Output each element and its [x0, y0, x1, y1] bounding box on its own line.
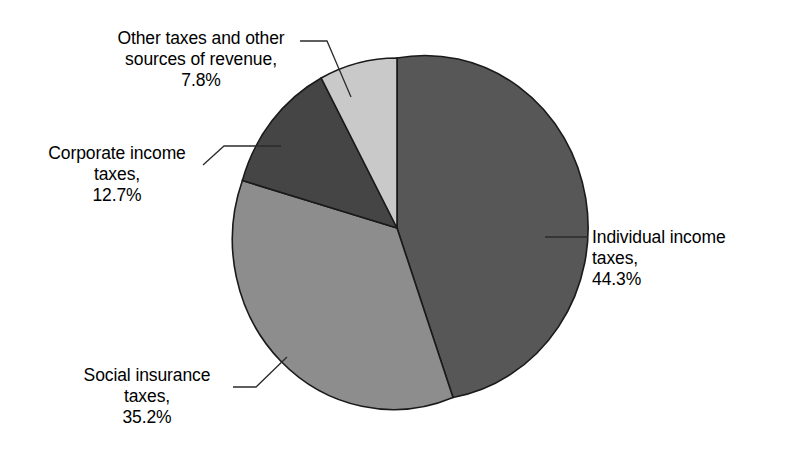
slice-label-individual-income-taxes: Individual income taxes, 44.3% — [592, 227, 784, 290]
slice-label-social-insurance-taxes: Social insurance taxes, 35.2% — [52, 365, 242, 428]
slice-label-corporate-income-taxes: Corporate income taxes, 12.7% — [22, 143, 212, 206]
slice-label-other-taxes: Other taxes and other sources of revenue… — [92, 28, 310, 91]
pie-chart: Other taxes and other sources of revenue… — [0, 0, 788, 456]
pie-chart-page: Other taxes and other sources of revenue… — [0, 0, 788, 456]
